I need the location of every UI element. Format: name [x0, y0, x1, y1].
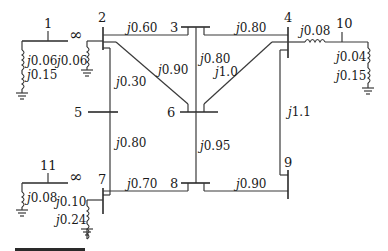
inductor-icon — [87, 206, 89, 221]
label-gen1-x2: j0.15 — [24, 68, 57, 82]
label-line-2-6: j0.90 — [155, 63, 188, 77]
inductor-icon — [22, 192, 24, 207]
label-line-2-5: j0.30 — [113, 75, 146, 89]
label-gen1-x1: j0.06 — [24, 54, 57, 68]
label-line-2-3: j0.60 — [124, 21, 157, 35]
svg-text:9: 9 — [284, 155, 292, 170]
bus-6: 6 — [167, 105, 218, 120]
label-line-6-8: j0.95 — [197, 139, 230, 153]
label-line-5-7: j0.80 — [113, 136, 146, 150]
svg-text:7: 7 — [98, 172, 106, 187]
infinity-symbol-bottom: ∞ — [69, 167, 82, 186]
label-gen7-x2: j0.24 — [53, 213, 87, 227]
inductor-icon — [368, 68, 370, 83]
label-gen7-x1: j0.10 — [53, 195, 86, 209]
inductor-icon — [22, 74, 24, 89]
label-line-3-4: j0.80 — [233, 21, 266, 35]
ground-icon — [362, 88, 374, 94]
svg-text:10: 10 — [336, 16, 353, 31]
svg-text:5: 5 — [74, 105, 82, 120]
label-line-3-6: j0.80 — [197, 52, 230, 66]
svg-text:2: 2 — [98, 10, 106, 25]
ground-icon — [16, 210, 28, 216]
svg-text:8: 8 — [170, 176, 178, 191]
label-line-8-9: j0.90 — [233, 177, 266, 191]
label-gen2-shunt: j0.06 — [54, 54, 87, 68]
label-line-7-8: j0.70 — [124, 177, 157, 191]
svg-text:4: 4 — [284, 10, 292, 25]
infinity-symbol-top: ∞ — [69, 25, 82, 44]
label-line-4-6: j1.0 — [212, 65, 238, 79]
svg-text:3: 3 — [170, 20, 178, 35]
label-gen10-x1: j0.04 — [333, 50, 367, 64]
inductor-icon — [368, 48, 370, 63]
ground-icon — [81, 70, 93, 76]
ground-icon — [16, 93, 28, 99]
bus-4: 4 — [284, 10, 292, 58]
bus-9: 9 — [284, 155, 292, 199]
svg-text:11: 11 — [40, 158, 57, 173]
label-line-4-10: j0.08 — [297, 24, 330, 38]
label-gen11-x: j0.08 — [24, 191, 57, 205]
label-line-4-9: j1.1 — [285, 105, 311, 119]
svg-text:6: 6 — [167, 105, 175, 120]
inductor-icon — [22, 50, 24, 70]
inductor-icon — [305, 40, 325, 43]
svg-text:1: 1 — [44, 16, 52, 31]
label-gen10-x2: j0.15 — [333, 69, 366, 83]
power-system-diagram: 1 j0.06 j0.15 ∞ 2 j0.06 j0.60 — [0, 0, 388, 251]
bus-5: 5 — [74, 105, 118, 120]
